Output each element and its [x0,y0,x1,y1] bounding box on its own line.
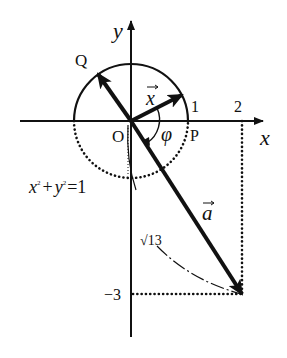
eq-sup1: 2 [37,179,41,187]
circle-equation: x2+y2=1 [28,177,86,197]
y-tick-neg3: −3 [104,286,121,303]
x-axis-label: x [259,125,270,150]
x-tick-2: 2 [234,98,242,115]
eq-sup2: 2 [63,179,67,187]
eq-plus: + [43,177,53,197]
x-tick-1: 1 [191,98,199,115]
length-sqrt13-label: √13 [140,233,162,248]
eq-y: y [53,177,63,197]
eq-x: x [28,177,37,197]
vector-x [131,95,182,121]
vector-a [131,121,242,294]
point-q-label: Q [75,51,87,70]
vector-q [98,74,131,121]
y-axis-label: y [111,18,123,43]
vector-diagram: y x O 1 2 −3 P Q x a φ x2+y2=1 √13 [0,0,287,358]
origin-label: O [112,127,124,146]
angle-phi-label: φ [161,123,172,146]
point-p-label: P [190,127,199,144]
vector-x-label: x [145,87,155,109]
eq-rhs: =1 [67,177,86,197]
